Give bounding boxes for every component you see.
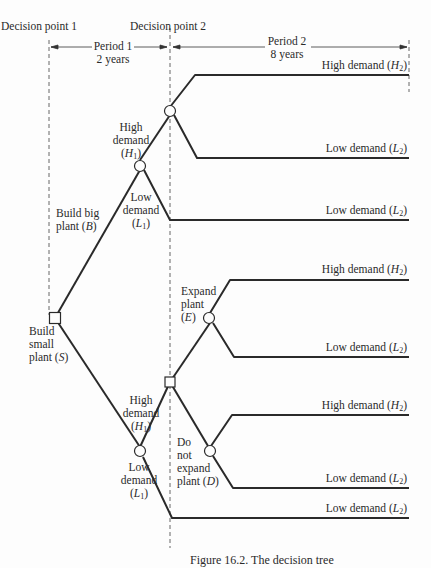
figure-caption: Figure 16.2. The decision tree xyxy=(190,553,334,568)
outcome-close: ) xyxy=(403,502,407,514)
period-2-name: Period 2 xyxy=(264,35,310,48)
outcome-close: ) xyxy=(403,341,407,353)
branch-expand-h2 xyxy=(210,280,409,313)
outcome-text: Low demand ( xyxy=(326,502,393,514)
arrow-left-icon xyxy=(173,45,180,49)
chance-node-big-plant xyxy=(135,161,146,172)
outcome-label: High demand (H2) xyxy=(322,399,407,412)
label-symbol: E xyxy=(185,311,192,323)
outcome-label: High demand (H2) xyxy=(322,263,407,276)
outcome-text: Low demand ( xyxy=(326,204,393,216)
branch-expand xyxy=(170,323,210,382)
arrow-right-icon xyxy=(160,45,167,49)
build-small-plant-label: Build small plant (S) xyxy=(29,325,68,364)
period-2-label: Period 2 8 years xyxy=(264,35,310,61)
do-not-expand-label: Do not expand plant (D) xyxy=(177,436,219,488)
label-close: ) xyxy=(215,475,219,487)
label-subscript: 1 xyxy=(133,152,137,161)
big-high-demand-label: High demand (H1) xyxy=(106,121,156,160)
label-line: not xyxy=(177,449,219,462)
outcome-text: Low demand ( xyxy=(326,142,393,154)
period-1-duration: 2 years xyxy=(91,53,135,66)
arrow-left-icon xyxy=(51,45,58,49)
label-line: Low xyxy=(116,191,166,204)
label-symbol: B xyxy=(86,220,93,232)
label-line: plant xyxy=(181,298,216,311)
period-1-label: Period 1 2 years xyxy=(91,40,135,66)
label-line: High xyxy=(106,121,156,134)
label-subscript: 1 xyxy=(142,222,146,231)
label-line: plant ( xyxy=(177,475,207,487)
outcome-label: High demand (H2) xyxy=(322,59,407,72)
outcome-label: Low demand (L2) xyxy=(326,204,407,217)
outcome-text: High demand ( xyxy=(322,59,391,71)
label-symbol: H xyxy=(135,420,143,432)
label-symbol: D xyxy=(207,475,215,487)
outcome-text: Low demand ( xyxy=(326,341,393,353)
label-line: Do xyxy=(177,436,219,449)
branch-no-expand-h2 xyxy=(211,415,409,446)
label-line: demand xyxy=(116,407,166,420)
branch-big-h1-h2 xyxy=(170,75,409,107)
expand-plant-label: Expand plant (E) xyxy=(181,285,216,324)
label-line: demand xyxy=(106,134,156,147)
label-line: Build xyxy=(29,325,68,338)
outcome-symbol: H xyxy=(391,263,399,275)
outcome-symbol: H xyxy=(391,399,399,411)
outcome-symbol: H xyxy=(391,59,399,71)
label-line: Expand xyxy=(181,285,216,298)
outcome-close: ) xyxy=(403,472,407,484)
small-low-demand-label: Low demand (L1) xyxy=(114,461,164,500)
outcome-close: ) xyxy=(403,142,407,154)
label-subscript: 1 xyxy=(143,425,147,434)
label-line: expand xyxy=(177,462,219,475)
period-2-duration: 8 years xyxy=(264,48,310,61)
outcome-text: Low demand ( xyxy=(326,472,393,484)
label-line: Build big xyxy=(56,207,99,220)
label-line: demand xyxy=(116,204,166,217)
outcome-text: High demand ( xyxy=(322,263,391,275)
chance-node-big-h1 xyxy=(165,106,176,117)
label-line: plant ( xyxy=(29,351,59,363)
outcome-close: ) xyxy=(403,263,407,275)
label-line: demand xyxy=(114,474,164,487)
period-1-name: Period 1 xyxy=(91,40,135,53)
build-big-plant-label: Build big plant (B) xyxy=(56,207,99,233)
arrow-right-icon xyxy=(400,45,407,49)
outcome-label: Low demand (L2) xyxy=(326,472,407,485)
outcome-close: ) xyxy=(403,399,407,411)
small-high-demand-label: High demand (H1) xyxy=(116,394,166,433)
decision-point-2-label: Decision point 2 xyxy=(130,20,206,33)
outcome-label: Low demand (L2) xyxy=(326,142,407,155)
outcome-close: ) xyxy=(403,59,407,71)
label-symbol: H xyxy=(125,147,133,159)
label-close: ) xyxy=(64,351,68,363)
outcome-close: ) xyxy=(403,204,407,216)
decision-point-1-label: Decision point 1 xyxy=(1,20,77,33)
outcome-text: High demand ( xyxy=(322,399,391,411)
label-subscript: 1 xyxy=(140,492,144,501)
label-line: small xyxy=(29,338,68,351)
decision-node-small-h1 xyxy=(165,377,175,387)
label-close: ) xyxy=(93,220,97,232)
outcome-label: Low demand (L2) xyxy=(326,502,407,515)
chance-node-small-plant xyxy=(135,446,146,457)
decision-node-root xyxy=(50,313,61,324)
big-low-demand-label: Low demand (L1) xyxy=(116,191,166,230)
outcome-label: Low demand (L2) xyxy=(326,341,407,354)
label-line: High xyxy=(116,394,166,407)
label-line: plant ( xyxy=(56,220,86,232)
label-line: Low xyxy=(114,461,164,474)
